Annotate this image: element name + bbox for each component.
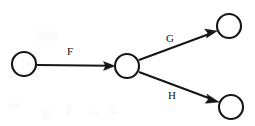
edge-g-arrowhead xyxy=(205,29,217,38)
bottom-right-node[interactable] xyxy=(219,95,243,119)
edge-h-arrowhead xyxy=(205,94,219,103)
edge-g-label: G xyxy=(166,32,174,44)
edge-h[interactable] xyxy=(139,72,219,103)
graph-svg: F G H xyxy=(0,0,255,126)
edge-g[interactable] xyxy=(139,29,217,60)
edge-f[interactable] xyxy=(37,62,115,71)
left-node[interactable] xyxy=(12,52,36,76)
edge-f-label: F xyxy=(67,45,73,57)
edge-h-label: H xyxy=(168,89,176,101)
edge-f-line xyxy=(37,65,110,66)
middle-node[interactable] xyxy=(115,54,139,78)
diagram-canvas: F G H xyxy=(0,0,255,126)
top-right-node[interactable] xyxy=(217,14,241,38)
